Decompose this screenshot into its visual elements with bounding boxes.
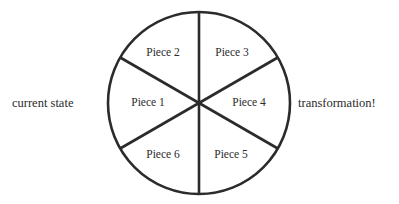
- piece-label-2: Piece 2: [146, 47, 180, 59]
- piece-label-4: Piece 4: [232, 97, 266, 109]
- label-current-state: current state: [12, 97, 73, 110]
- diagram-canvas: current state transformation! Piece 1 Pi…: [0, 0, 399, 204]
- piece-label-6: Piece 6: [146, 149, 180, 161]
- piece-label-3: Piece 3: [215, 47, 249, 59]
- label-transformation: transformation!: [298, 97, 376, 110]
- piece-label-5: Piece 5: [214, 149, 248, 161]
- piece-label-1: Piece 1: [131, 97, 165, 109]
